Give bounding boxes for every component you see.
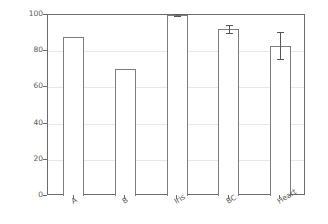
bar (115, 69, 136, 196)
errorbar-cap-upper (174, 14, 181, 15)
errorbar-cap-lower (174, 16, 181, 17)
bar (167, 15, 188, 196)
x-axis-tick-label: B (121, 196, 129, 205)
y-axis-tick-label: 40 (7, 119, 43, 127)
y-axis-tick-label: 80 (7, 46, 43, 54)
errorbar-cap-upper (277, 32, 284, 33)
errorbar-cap-lower (277, 59, 284, 60)
bar (270, 46, 291, 196)
plot-area (47, 14, 305, 195)
chart-figure: % performance 020406080100 ABIrisBCHeart (0, 0, 328, 224)
bar (218, 29, 239, 196)
errorbar-cap-lower (226, 33, 233, 34)
errorbar-cap-upper (226, 25, 233, 26)
y-axis-tick-label: 0 (7, 191, 43, 199)
y-axis-tick-label: 100 (7, 10, 43, 18)
errorbar-line (229, 25, 230, 32)
x-axis-tick-label: A (70, 196, 78, 205)
bar (63, 37, 84, 196)
errorbar-line (280, 32, 281, 59)
x-axis-tick-label: BC (225, 194, 238, 206)
y-axis-tick-label: 20 (7, 155, 43, 163)
y-axis-tick-mark (43, 195, 47, 196)
y-axis-tick-label: 60 (7, 83, 43, 91)
